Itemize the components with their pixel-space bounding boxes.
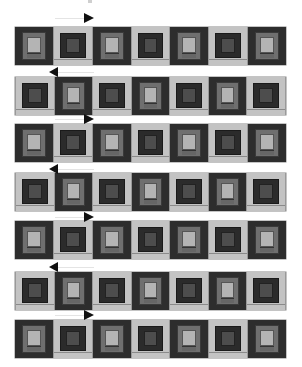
block-center xyxy=(28,283,42,298)
block-strip xyxy=(93,109,131,110)
dark-frame-block xyxy=(170,27,208,65)
block-strip xyxy=(27,346,41,351)
block-strip xyxy=(260,247,274,252)
block-strip xyxy=(247,205,285,206)
light-frame-block xyxy=(169,77,209,115)
pressing-guide-line xyxy=(55,217,85,218)
block-center xyxy=(221,87,235,103)
block-strip xyxy=(54,352,92,353)
block-strip xyxy=(54,59,92,60)
block-strip xyxy=(16,304,54,305)
dark-frame-block xyxy=(209,77,247,115)
light-frame-block xyxy=(246,77,286,115)
light-frame-block xyxy=(246,173,286,211)
block-center xyxy=(221,232,235,247)
light-frame-block xyxy=(15,77,55,115)
block-strip xyxy=(93,205,131,206)
block-center xyxy=(182,330,196,346)
dark-frame-block xyxy=(170,320,208,358)
block-center xyxy=(144,87,158,103)
quilt-row-5 xyxy=(15,221,286,259)
block-strip xyxy=(182,150,196,155)
light-frame-block xyxy=(169,272,209,310)
block-strip xyxy=(221,103,235,108)
block-strip xyxy=(132,156,170,157)
dark-frame-block xyxy=(15,27,53,65)
light-frame-block xyxy=(53,27,93,65)
light-frame-block xyxy=(131,221,171,259)
light-frame-block xyxy=(208,320,248,358)
light-frame-block xyxy=(92,173,132,211)
block-strip xyxy=(105,247,119,252)
block-center xyxy=(67,87,81,103)
block-center xyxy=(182,283,196,298)
block-center xyxy=(144,331,158,346)
block-center xyxy=(105,330,119,346)
block-center xyxy=(27,231,41,247)
dark-frame-block xyxy=(132,272,170,310)
dark-frame-block xyxy=(248,124,286,162)
block-center xyxy=(27,330,41,346)
block-center xyxy=(66,38,80,53)
arrow-right-icon xyxy=(84,13,94,23)
quilt-row-1 xyxy=(15,27,286,65)
block-strip xyxy=(182,247,196,252)
block-center xyxy=(260,134,274,150)
block-strip xyxy=(16,109,54,110)
block-center xyxy=(144,183,158,199)
light-frame-block xyxy=(208,124,248,162)
block-strip xyxy=(132,352,170,353)
light-frame-block xyxy=(53,320,93,358)
light-frame-block xyxy=(92,272,132,310)
block-strip xyxy=(260,150,274,155)
block-strip xyxy=(132,253,170,254)
block-strip xyxy=(105,53,119,58)
dark-frame-block xyxy=(93,27,131,65)
dark-frame-block xyxy=(93,124,131,162)
block-strip xyxy=(247,304,285,305)
block-center xyxy=(182,88,196,103)
block-center xyxy=(105,283,119,298)
block-center xyxy=(259,184,273,199)
block-center xyxy=(221,331,235,346)
quilt-row-4 xyxy=(15,173,286,211)
block-center xyxy=(67,183,81,199)
block-center xyxy=(105,231,119,247)
dark-frame-block xyxy=(170,221,208,259)
block-strip xyxy=(144,103,158,108)
dark-frame-block xyxy=(132,173,170,211)
light-frame-block xyxy=(15,173,55,211)
light-frame-block xyxy=(131,320,171,358)
block-strip xyxy=(54,156,92,157)
block-center xyxy=(221,282,235,298)
block-center xyxy=(66,331,80,346)
block-center xyxy=(27,37,41,53)
light-frame-block xyxy=(53,221,93,259)
block-strip xyxy=(170,109,208,110)
pressing-guide-line xyxy=(58,72,94,73)
block-strip xyxy=(27,247,41,252)
block-strip xyxy=(16,205,54,206)
dark-frame-block xyxy=(55,173,93,211)
light-frame-block xyxy=(208,27,248,65)
block-strip xyxy=(27,53,41,58)
block-strip xyxy=(27,150,41,155)
light-frame-block xyxy=(15,272,55,310)
block-strip xyxy=(67,199,81,204)
block-strip xyxy=(209,352,247,353)
block-strip xyxy=(144,298,158,303)
light-frame-block xyxy=(246,272,286,310)
block-strip xyxy=(182,53,196,58)
dark-frame-block xyxy=(209,173,247,211)
block-strip xyxy=(67,298,81,303)
pressing-guide-line xyxy=(55,18,85,19)
arrow-left-icon xyxy=(49,262,58,272)
block-strip xyxy=(209,253,247,254)
pressing-guide-line xyxy=(55,119,85,120)
block-strip xyxy=(132,59,170,60)
arrow-right-icon xyxy=(84,310,94,320)
block-strip xyxy=(260,346,274,351)
light-frame-block xyxy=(131,27,171,65)
arrow-right-icon xyxy=(84,114,94,124)
dark-frame-block xyxy=(170,124,208,162)
